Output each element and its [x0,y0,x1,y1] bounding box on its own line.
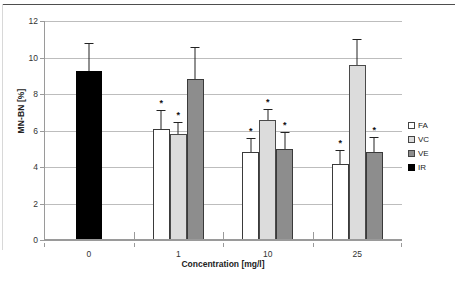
error-bar-cap-top [84,43,93,44]
bar-slot-fa: * [242,21,259,240]
error-bar-cap-top [280,132,289,133]
legend-item-vc[interactable]: VC [408,132,452,146]
error-bar-cap-top [353,39,362,40]
legend-label: VE [418,149,429,158]
bar-fa-1 [153,129,170,240]
y-axis-title: MN-BN [%] [16,66,26,156]
significance-marker: * [266,99,270,106]
bar-ve-1 [187,79,204,240]
error-bar-cap-top [370,137,379,138]
legend-swatch-icon [408,122,415,129]
legend-label: IR [418,163,426,172]
bar-slot-ve [187,21,204,240]
bar-slot-ve: * [276,21,293,240]
legend-label: VC [418,135,429,144]
error-bar-cap-top [191,47,200,48]
y-tick-label: 2 [12,199,38,209]
legend-swatch-icon [408,164,415,171]
y-tick-label: 10 [12,53,38,63]
legend-item-ve[interactable]: VE [408,146,452,160]
legend-item-fa[interactable]: FA [408,118,452,132]
x-axis-title: Concentration [mg/l] [44,259,402,269]
bar-slot-vc: * [170,21,187,240]
legend-swatch-icon [408,136,415,143]
bar-slot-vc: * [259,21,276,240]
bar-vc-10 [259,120,276,240]
x-tick-label: 10 [263,249,272,259]
bar-group: ** [134,21,224,240]
significance-marker: * [372,127,376,134]
y-tick-label: 12 [12,16,38,26]
x-tick-label: 25 [353,249,362,259]
x-tick-mark [44,243,45,247]
category-separator [313,232,314,240]
significance-marker: * [249,128,253,135]
legend-label: FA [418,121,428,130]
bar-slot-fa: * [153,21,170,240]
bar-ve-10 [276,149,293,240]
bar-slot-fa: * [332,21,349,240]
error-bar-cap-top [157,110,166,111]
significance-marker: * [283,122,287,129]
bar-ir-0 [76,71,102,240]
plot-area: ******* [44,21,402,240]
x-tick-label: 0 [86,249,91,259]
bar-vc-1 [170,134,187,240]
bar-slot-ve: * [366,21,383,240]
x-tick-mark [223,243,224,247]
bar-group [44,21,134,240]
x-tick-mark [401,243,402,247]
y-tick-mark [40,240,44,241]
y-tick-label: 4 [12,162,38,172]
error-bar-cap-top [263,109,272,110]
legend-swatch-icon [408,150,415,157]
legend-item-ir[interactable]: IR [408,160,452,174]
x-axis-tick-labels: 011025 [44,243,402,259]
bar-ve-25 [366,152,383,240]
bar-vc-25 [349,65,366,240]
x-tick-mark [134,243,135,247]
error-bar-cap-top [246,138,255,139]
bar-fa-10 [242,152,259,240]
bar-group: *** [223,21,313,240]
bar-fa-25 [332,164,349,240]
scan-border-left [2,4,3,250]
category-separator [134,232,135,240]
bar-slot-vc [349,21,366,240]
chart-legend: FAVCVEIR [408,118,452,174]
bar-group: ** [313,21,403,240]
error-bar-cap-top [336,150,345,151]
gridline [44,240,402,241]
significance-marker: * [338,140,342,147]
significance-marker: * [176,112,180,119]
x-tick-label: 1 [176,249,181,259]
category-separator [223,232,224,240]
y-axis-line [44,21,45,240]
chart-figure: 024681012 MN-BN [%] ******* 011025 Conce… [0,0,457,282]
error-bar-cap-top [174,122,183,123]
scan-border-top [2,4,455,5]
x-tick-mark [313,243,314,247]
significance-marker: * [159,100,163,107]
bar-slot-ir [76,21,102,240]
y-tick-label: 0 [12,235,38,245]
